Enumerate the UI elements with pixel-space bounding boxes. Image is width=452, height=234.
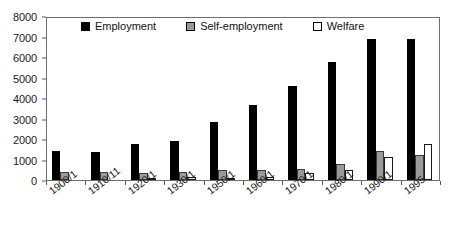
plot-area [47, 18, 439, 180]
x-axis: 1900/11910/111920/11930/11950/11960/1197… [46, 181, 440, 234]
x-axis-tick-mark [125, 181, 126, 185]
bar-employment [249, 105, 258, 180]
bar-employment [367, 39, 376, 180]
bar-group [367, 39, 393, 180]
x-axis-tick-mark [46, 181, 47, 185]
bar-group [328, 62, 354, 180]
legend-label-self-employment: Self-employment [200, 21, 283, 32]
y-axis-tick-label: 2000 [13, 135, 37, 146]
y-axis: 010002000300040005000600070008000 [0, 0, 46, 234]
bar-group [288, 86, 314, 180]
bar-employment [407, 39, 416, 180]
x-axis-tick-mark [85, 181, 86, 185]
bar-chart: 010002000300040005000600070008000 Employ… [0, 0, 452, 234]
legend-label-welfare: Welfare [327, 21, 365, 32]
x-axis-tick-mark [243, 181, 244, 185]
legend-item-employment: Employment [81, 21, 156, 32]
white-square-icon [313, 22, 322, 31]
x-axis-tick-mark [282, 181, 283, 185]
x-axis-tick-mark [164, 181, 165, 185]
y-axis-tick-label: 4000 [13, 94, 37, 105]
y-axis-tick-label: 1000 [13, 155, 37, 166]
black-square-icon [81, 22, 90, 31]
bar-employment [131, 144, 140, 180]
bar-employment [210, 122, 219, 180]
bar-employment [288, 86, 297, 180]
x-axis-tick-mark [440, 181, 441, 185]
grey-square-icon [186, 22, 195, 31]
chart-legend: Employment Self-employment Welfare [81, 21, 364, 32]
y-axis-tick-label: 6000 [13, 53, 37, 64]
y-axis-tick-label: 5000 [13, 73, 37, 84]
x-axis-tick-mark [322, 181, 323, 185]
legend-item-self-employment: Self-employment [186, 21, 283, 32]
y-axis-tick-label: 3000 [13, 114, 37, 125]
x-axis-tick-mark [401, 181, 402, 185]
x-axis-tick-mark [361, 181, 362, 185]
legend-item-welfare: Welfare [313, 21, 365, 32]
y-axis-tick-label: 7000 [13, 32, 37, 43]
bar-group [249, 105, 275, 180]
x-axis-tick-mark [204, 181, 205, 185]
bar-employment [170, 141, 179, 180]
bar-group [407, 39, 433, 180]
y-axis-tick-label: 0 [31, 176, 37, 187]
bar-employment [328, 62, 337, 180]
y-axis-tick-label: 8000 [13, 12, 37, 23]
plot-frame: Employment Self-employment Welfare [46, 17, 440, 181]
legend-label-employment: Employment [95, 21, 156, 32]
bar-welfare [424, 144, 433, 180]
